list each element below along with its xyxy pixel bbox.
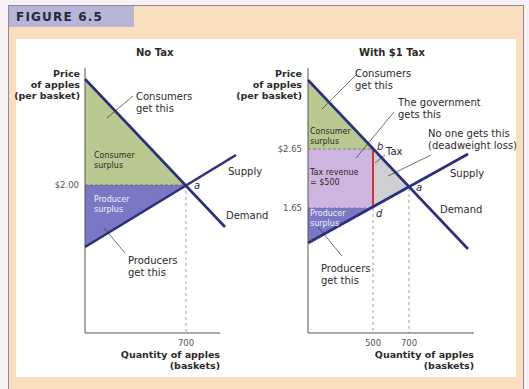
consumer-surplus-label-line2: surplus [94, 161, 123, 170]
chart-with-tax: With $1 Tax Price of apples (per basket)… [236, 47, 517, 371]
tax-revenue-label-line2: = $500 [310, 178, 340, 187]
equilibrium-point-label: a [194, 180, 200, 191]
dwl-callout-leader [388, 155, 431, 176]
producer-surplus-label-line1: Producer [310, 209, 346, 218]
dwl-callout-line2: (deadweight loss) [428, 140, 517, 151]
consumers-callout-line1: Consumers [355, 68, 411, 79]
x-axis-label-line2: (baskets) [424, 360, 474, 371]
deadweight-loss-area [373, 149, 409, 208]
y-axis-label-line1: Price [53, 68, 80, 79]
charts-svg: No Tax Price of apples (per basket) Cons… [0, 0, 529, 389]
quantity-500-tick: 500 [365, 338, 381, 348]
tax-label: Tax [385, 146, 403, 157]
demand-label: Demand [440, 204, 482, 215]
chart-title: No Tax [136, 47, 174, 58]
consumer-surplus-label-line2: surplus [310, 137, 339, 146]
y-axis-label-line1: Price [275, 68, 302, 79]
dwl-callout-line1: No one gets this [428, 128, 510, 139]
demand-label: Demand [226, 210, 268, 221]
government-callout-line2: gets this [398, 109, 441, 120]
producer-surplus-label-line2: surplus [94, 205, 123, 214]
consumer-surplus-label-line1: Consumer [310, 127, 352, 136]
consumers-callout-line2: get this [355, 80, 393, 91]
supply-label: Supply [450, 168, 484, 179]
quantity-tick: 700 [178, 338, 194, 348]
producer-surplus-label-line2: surplus [310, 219, 339, 228]
producers-callout-line2: get this [321, 275, 359, 286]
x-axis-label-line1: Quantity of apples [375, 349, 475, 360]
supply-label: Supply [228, 166, 262, 177]
point-d-label: d [376, 208, 383, 219]
y-axis-label-line2: of apples [253, 79, 303, 90]
producers-callout-line2: get this [128, 267, 166, 278]
point-a-label: a [416, 182, 422, 193]
government-callout-line1: The government [397, 97, 481, 108]
high-price-tick: $2.65 [278, 144, 302, 154]
point-b-label: b [377, 141, 383, 152]
quantity-700-tick: 700 [401, 338, 417, 348]
low-price-tick: 1.65 [283, 203, 302, 213]
y-axis-label-line2: of apples [31, 79, 81, 90]
consumers-callout-leader [322, 75, 356, 109]
producers-callout-leader [104, 228, 125, 253]
producers-callout-line1: Producers [128, 255, 178, 266]
consumers-callout-line2: get this [136, 103, 174, 114]
producers-callout-line1: Producers [321, 263, 371, 274]
consumers-callout-line1: Consumers [136, 91, 192, 102]
tax-revenue-label-line1: Tax revenue [309, 168, 359, 177]
consumer-surplus-label-line1: Consumer [94, 151, 136, 160]
chart-title: With $1 Tax [359, 47, 426, 58]
x-axis-label-line1: Quantity of apples [121, 349, 221, 360]
y-axis-label-line3: (per basket) [14, 90, 80, 101]
price-tick: $2.00 [55, 180, 79, 190]
producer-surplus-label-line1: Producer [94, 195, 130, 204]
chart-no-tax: No Tax Price of apples (per basket) Cons… [14, 47, 268, 371]
y-axis-label-line3: (per basket) [236, 90, 302, 101]
x-axis-label-line2: (baskets) [170, 360, 220, 371]
